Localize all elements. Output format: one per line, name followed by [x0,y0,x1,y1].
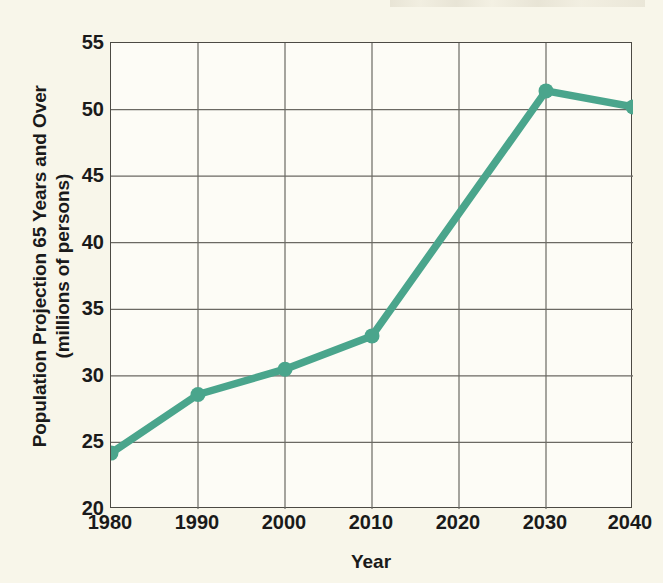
plot-svg [111,43,633,509]
x-tick-label: 1980 [70,512,150,532]
population-projection-line-chart: Population Projection 65 Years and Over … [0,0,663,583]
x-axis-title: Year [110,551,632,573]
data-point-marker [365,328,380,343]
x-tick-label: 2000 [244,512,324,532]
x-tick-label: 2030 [505,512,585,532]
vertical-gridlines [198,43,546,509]
data-point-marker [539,83,554,98]
x-tick-label: 2010 [331,512,411,532]
x-tick-label: 2040 [590,512,663,532]
plot-area [110,42,632,508]
data-point-marker [278,362,293,377]
x-tick-label: 2020 [418,512,498,532]
x-tick-label: 1990 [157,512,237,532]
data-point-marker [626,99,634,114]
data-point-marker [191,387,206,402]
